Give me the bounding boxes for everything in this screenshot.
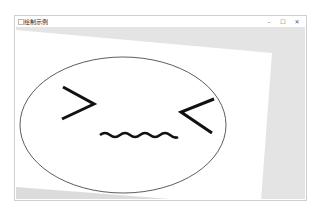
app-window: 绘制示例 – ☐ ✕ xyxy=(14,15,307,201)
maximize-button[interactable]: ☐ xyxy=(276,16,290,27)
rotated-white-rectangle xyxy=(16,30,272,199)
minimize-button[interactable]: – xyxy=(262,16,276,27)
close-button[interactable]: ✕ xyxy=(290,16,304,27)
drawing-canvas xyxy=(16,27,305,199)
window-title: 绘制示例 xyxy=(24,17,48,26)
title-bar[interactable]: 绘制示例 – ☐ ✕ xyxy=(15,16,306,27)
face-drawing xyxy=(16,27,305,199)
